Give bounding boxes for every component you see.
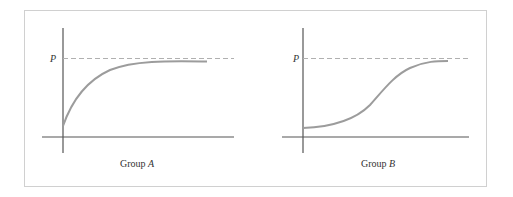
panel-caption: Group A [120, 158, 155, 169]
figure-frame [25, 11, 487, 187]
asymptote-label: P [49, 53, 56, 64]
panel-caption: Group B [361, 158, 395, 169]
asymptote-label: P [292, 53, 299, 64]
figure: P Group A P Group B [0, 0, 513, 197]
